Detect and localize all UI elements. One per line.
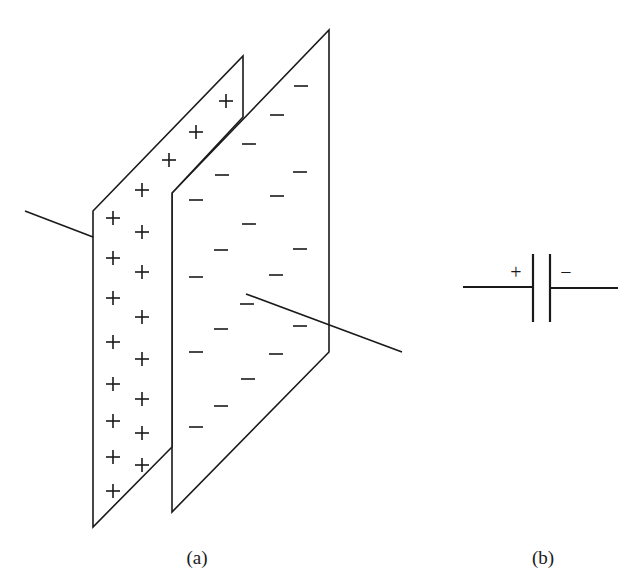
symbol-plus-label: +	[510, 261, 521, 283]
negative-plate	[172, 30, 329, 512]
capacitor-diagram: + − (a) (b)	[0, 0, 636, 569]
left-lead-wire	[25, 211, 93, 237]
capacitor-figure: + − (a) (b)	[0, 0, 636, 569]
panel-b-label: (b)	[532, 547, 554, 569]
symbol-minus-label: −	[560, 261, 571, 283]
panel-a-label: (a)	[186, 547, 207, 569]
capacitor-symbol: + −	[463, 254, 618, 322]
